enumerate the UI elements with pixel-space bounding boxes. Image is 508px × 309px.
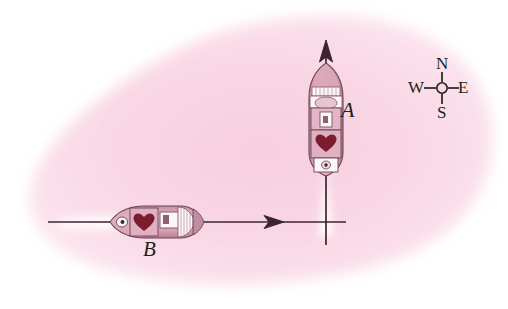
ship-a[interactable] — [309, 63, 343, 176]
compass-label-south: S — [437, 104, 446, 121]
ship-a-label: A — [341, 99, 354, 121]
ship-b-hatch-window — [163, 215, 169, 224]
ship-a-hatch-window — [323, 116, 328, 123]
ship-a-bridge-dome — [315, 97, 337, 109]
compass-label-east: E — [458, 79, 468, 96]
ship-b-bow-port-dot — [121, 220, 125, 224]
ship-b[interactable] — [110, 206, 204, 238]
ship-a-stern-port-dot — [324, 163, 327, 166]
compass-label-west: W — [408, 79, 424, 96]
sea-background-blob — [30, 16, 493, 285]
compass-label-north: N — [436, 55, 448, 72]
compass-center-icon — [437, 83, 447, 93]
figure-canvas: A B N S W E — [0, 0, 508, 309]
diagram-svg — [0, 0, 508, 309]
ship-b-label: B — [143, 239, 156, 260]
